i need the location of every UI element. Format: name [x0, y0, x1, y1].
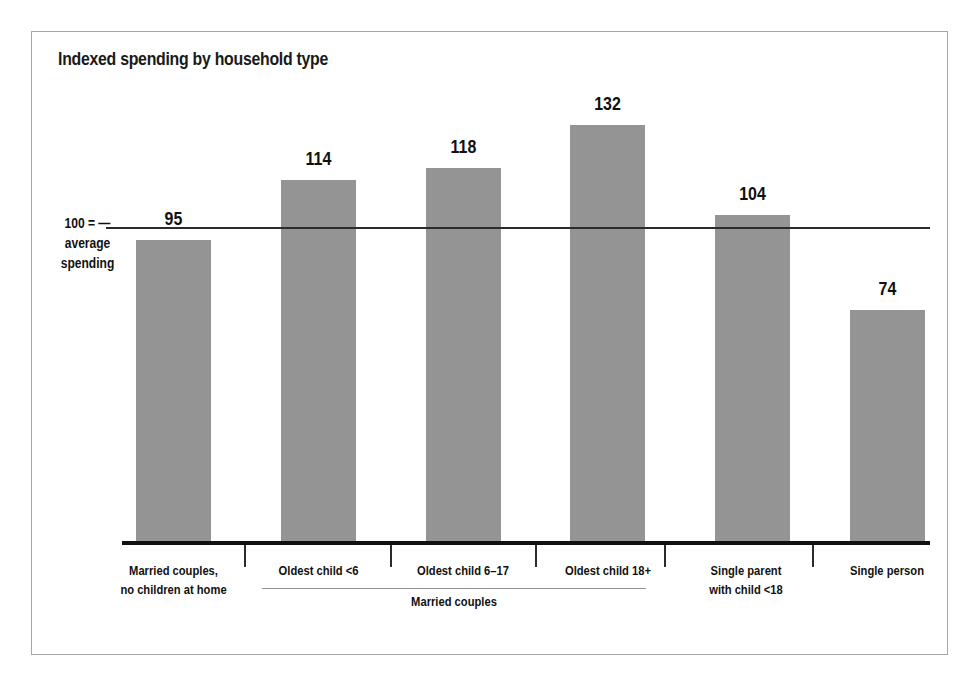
category-label-line: Single person — [850, 563, 924, 578]
category-label-oldest-child-under-6: Oldest child <6 — [261, 562, 375, 581]
category-label-oldest-child-6-17: Oldest child 6–17 — [405, 562, 520, 581]
bar-value-label: 104 — [721, 183, 784, 205]
axis-tick — [812, 545, 814, 567]
category-label-line: Oldest child 18+ — [565, 563, 651, 578]
category-label-line: Oldest child <6 — [279, 563, 359, 578]
axis-tick — [535, 545, 537, 567]
reference-line-100 — [122, 227, 930, 229]
category-label-married-no-children: Married couples, no children at home — [113, 562, 234, 600]
category-label-line: with child <18 — [709, 582, 783, 597]
bar-oldest-child-18-plus — [570, 125, 645, 542]
group-label-married-couples: Married couples — [289, 594, 619, 609]
bar-married-no-children — [136, 240, 211, 542]
category-label-single-person: Single person — [833, 562, 941, 581]
reference-line-label: 100 = — average spending — [51, 214, 124, 274]
category-label-line: Oldest child 6–17 — [417, 563, 509, 578]
bar-value-label: 74 — [856, 278, 919, 300]
reference-label-line1: 100 = — — [65, 215, 111, 231]
reference-label-line3: spending — [61, 255, 115, 271]
bar-single-parent-child-under-18 — [715, 215, 790, 542]
category-label-single-parent: Single parent with child <18 — [693, 562, 800, 600]
bar-oldest-child-6-17 — [426, 168, 501, 542]
group-bracket-line — [262, 588, 646, 589]
category-label-line: Single parent — [711, 563, 782, 578]
chart-figure: Indexed spending by household type 100 =… — [0, 0, 979, 679]
category-label-line: Married couples, — [129, 563, 218, 578]
bar-value-label: 95 — [142, 208, 205, 230]
bar-single-person — [850, 310, 925, 542]
category-label-oldest-child-18-plus: Oldest child 18+ — [550, 562, 665, 581]
bar-value-label: 118 — [432, 136, 495, 158]
plot-area: 100 = — average spending 95 114 118 132 … — [0, 0, 979, 679]
bar-value-label: 132 — [576, 93, 639, 115]
bar-value-label: 114 — [287, 148, 350, 170]
category-label-line: no children at home — [120, 582, 226, 597]
axis-tick — [390, 545, 392, 567]
axis-tick — [244, 545, 246, 567]
reference-label-line2: average — [65, 235, 111, 251]
bar-oldest-child-under-6 — [281, 180, 356, 542]
